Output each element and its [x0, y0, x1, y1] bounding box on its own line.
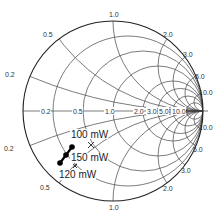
trace-point-dot: [69, 144, 75, 150]
label-bottom-0.2: 0.2: [4, 145, 14, 152]
reactance-arc-minus-0.5: [23, 111, 221, 218]
outer-labels-bottom: 0.2 0.5 1.0 2.0 3.0 5.0 10.0: [4, 124, 213, 211]
trace-point-dot: [57, 160, 63, 166]
annotation-120mw: 120 mW: [59, 169, 97, 180]
smith-chart: 0.2 0.5 1.0 2.0 3.0 5.0 10.0 0.2 0.5 1.0…: [0, 0, 221, 218]
label-bottom-2.0: 2.0: [163, 185, 173, 192]
label-top-3.0: 3.0: [183, 51, 193, 58]
label-top-10.0: 10.0: [199, 89, 213, 96]
label-top-2.0: 2.0: [163, 31, 173, 38]
annotation-100mw: 100 mW: [71, 129, 109, 140]
trace-point-dot: [63, 152, 69, 158]
annotation-150mw: 150 mW: [71, 152, 109, 163]
axis-label-10.0: 10.0: [172, 108, 186, 115]
axis-label-2.0: 2.0: [134, 108, 144, 115]
label-bottom-0.5: 0.5: [40, 184, 50, 191]
axis-label-3.0: 3.0: [147, 108, 157, 115]
axis-label-0.5: 0.5: [73, 108, 83, 115]
label-top-0.2: 0.2: [5, 71, 15, 78]
label-bottom-3.0: 3.0: [181, 167, 191, 174]
axis-label-0.2: 0.2: [41, 108, 51, 115]
axis-label-5.0: 5.0: [159, 108, 169, 115]
label-bottom-10.0: 10.0: [199, 124, 213, 131]
label-top-0.5: 0.5: [43, 31, 53, 38]
label-top-1.0: 1.0: [109, 11, 119, 18]
label-top-5.0: 5.0: [195, 73, 205, 80]
label-bottom-1.0: 1.0: [109, 204, 119, 211]
axis-label-1.0: 1.0: [105, 108, 115, 115]
label-bottom-5.0: 5.0: [193, 146, 203, 153]
x-marker-icon: [88, 142, 94, 148]
reactance-arc-minus-0.2: [0, 111, 221, 218]
